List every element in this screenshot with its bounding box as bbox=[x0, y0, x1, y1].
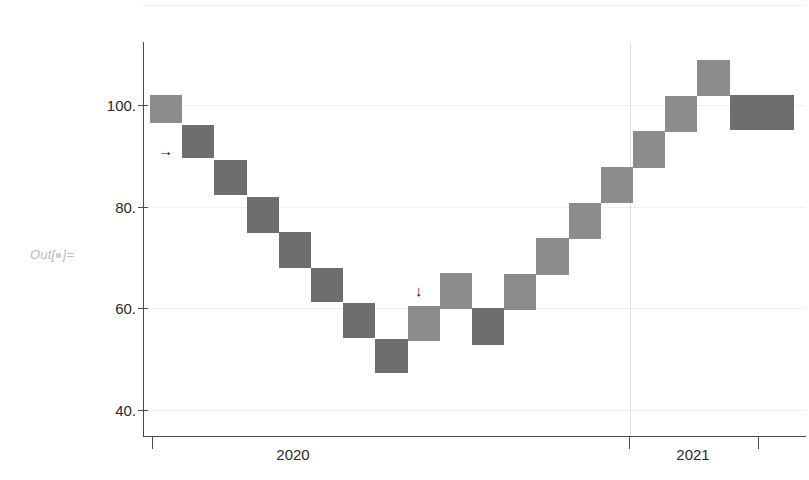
bar-block bbox=[697, 60, 729, 96]
bar-block bbox=[150, 95, 182, 123]
x-axis-tick bbox=[152, 437, 153, 449]
bar-block bbox=[375, 339, 407, 374]
bar-block bbox=[762, 95, 794, 131]
bar-block bbox=[182, 125, 214, 158]
y-axis-tick-label: 100. bbox=[107, 97, 136, 114]
bar-block bbox=[504, 274, 536, 311]
bar-block bbox=[472, 308, 504, 345]
y-axis-tick bbox=[138, 207, 148, 208]
gridline-horizontal bbox=[144, 105, 806, 106]
bar-block bbox=[311, 268, 343, 303]
notebook-output-cell: Out[]= 100.80.60.40. 20202021 →↓ bbox=[0, 0, 809, 480]
bar-block bbox=[440, 273, 472, 310]
x-axis-tick bbox=[758, 437, 759, 449]
y-axis-tick bbox=[138, 105, 148, 106]
bar-block bbox=[279, 232, 311, 268]
bar-chart: 100.80.60.40. 20202021 →↓ bbox=[0, 0, 809, 480]
gridline-horizontal bbox=[144, 207, 806, 208]
bar-block bbox=[569, 203, 601, 239]
y-axis-tick bbox=[138, 410, 148, 411]
gridline-horizontal bbox=[144, 410, 806, 411]
y-axis-tick-label: 80. bbox=[115, 198, 136, 215]
y-axis-line bbox=[143, 42, 144, 437]
x-axis-tick-label: 2021 bbox=[676, 446, 709, 463]
y-axis-tick-label: 60. bbox=[115, 300, 136, 317]
bar-block bbox=[343, 303, 375, 338]
right-arrow-annotation: → bbox=[158, 143, 173, 158]
y-axis-tick-label: 40. bbox=[115, 402, 136, 419]
bar-block bbox=[247, 197, 279, 234]
bar-block bbox=[408, 306, 440, 342]
bar-block bbox=[601, 167, 633, 203]
x-axis-tick bbox=[629, 437, 630, 449]
x-axis-tick-label: 2020 bbox=[276, 446, 309, 463]
down-arrow-annotation: ↓ bbox=[415, 283, 423, 298]
bar-block bbox=[730, 95, 762, 131]
x-axis-line bbox=[143, 436, 806, 437]
bar-block bbox=[214, 160, 246, 196]
y-axis-tick bbox=[138, 308, 148, 309]
bar-block bbox=[536, 238, 568, 275]
bar-block bbox=[665, 96, 697, 132]
bar-block bbox=[633, 131, 665, 167]
gridline-vertical bbox=[630, 42, 631, 436]
